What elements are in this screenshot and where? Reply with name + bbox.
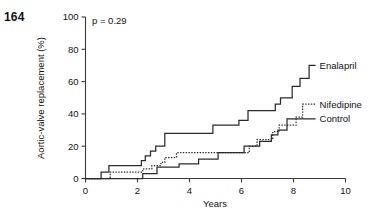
y-axis-ticks: [82, 17, 86, 179]
page-number: 164: [4, 10, 25, 24]
x-axis: 0246810 Years: [83, 179, 351, 210]
y-tick-label: 60: [68, 76, 79, 87]
x-axis-title: Years: [203, 198, 227, 209]
x-tick-label: 4: [187, 185, 192, 196]
series-curves: [86, 65, 316, 178]
x-tick-label: 8: [291, 185, 296, 196]
series-curve-nifedipine: [86, 104, 316, 178]
y-tick-label: 100: [63, 11, 79, 22]
y-tick-label: 80: [68, 44, 79, 55]
y-axis-title: Aortic-valve replacement (%): [35, 37, 46, 159]
x-axis-tick-labels: 0246810: [83, 185, 351, 196]
x-tick-label: 10: [340, 185, 351, 196]
kaplan-meier-chart: 020406080100 Aortic-valve replacement (%…: [0, 0, 373, 224]
p-value-annotation: p = 0.29: [92, 15, 127, 26]
x-tick-label: 0: [83, 185, 88, 196]
y-axis-tick-labels: 020406080100: [63, 11, 79, 184]
y-tick-label: 20: [68, 141, 79, 152]
series-curve-enalapril: [86, 65, 316, 178]
legend-label-nifedipine: Nifedipine: [320, 99, 362, 110]
legend: EnalaprilNifedipineControl: [320, 60, 362, 124]
figure-container: 164 020406080100 Aortic-valve replacemen…: [0, 0, 373, 224]
x-tick-label: 6: [239, 185, 244, 196]
y-tick-label: 0: [73, 173, 78, 184]
series-curve-control: [86, 119, 316, 179]
x-tick-label: 2: [135, 185, 140, 196]
y-axis: 020406080100 Aortic-valve replacement (%…: [35, 11, 86, 184]
y-tick-label: 40: [68, 108, 79, 119]
legend-label-control: Control: [320, 113, 351, 124]
legend-label-enalapril: Enalapril: [320, 60, 357, 71]
